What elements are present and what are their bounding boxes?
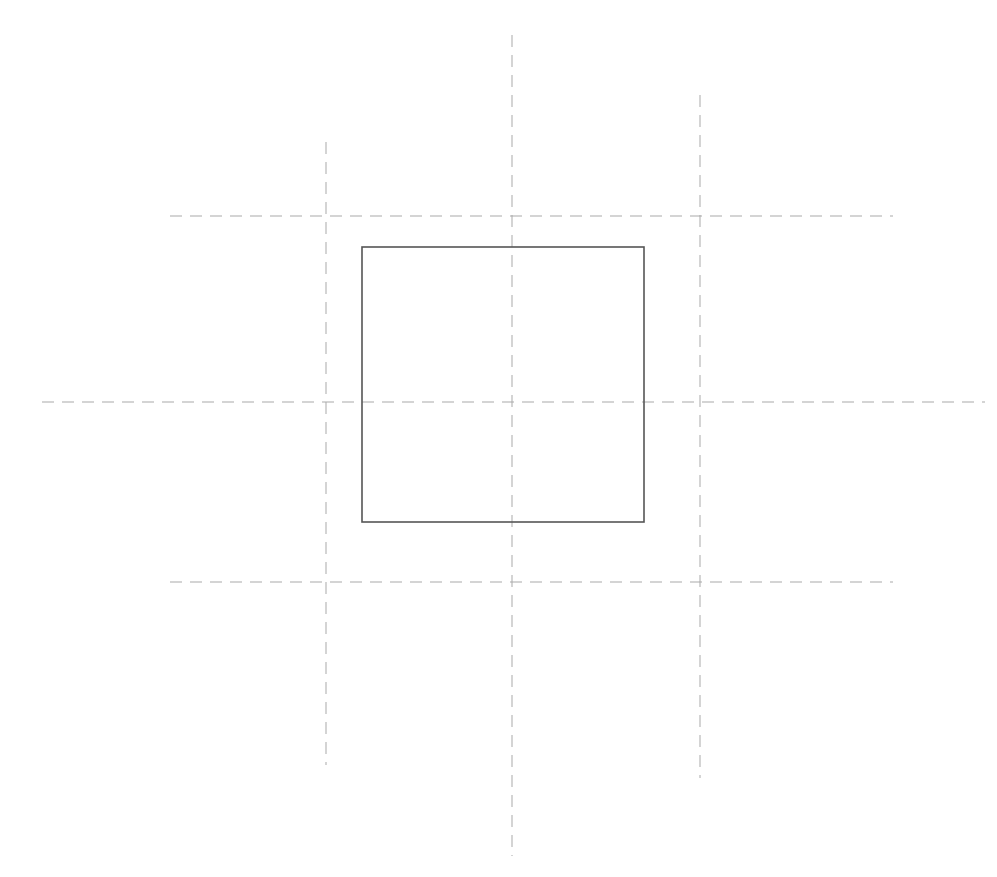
drawing-canvas: [0, 0, 997, 877]
square-outline: [362, 247, 644, 522]
horizontal-construction-lines: [42, 216, 985, 582]
